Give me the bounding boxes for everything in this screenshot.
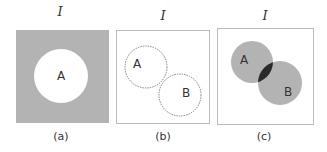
caption-b: (b)	[155, 130, 171, 143]
universe-label-c: I	[261, 8, 268, 23]
set-a-label: A	[133, 57, 142, 71]
panel-c: I A B (c)	[218, 8, 314, 143]
panel-b: I A B (b)	[117, 8, 210, 143]
caption-a: (a)	[53, 130, 68, 143]
universe-label-b: I	[159, 8, 166, 23]
panel-a: I A (a)	[16, 4, 109, 143]
caption-c: (c)	[257, 130, 272, 143]
set-a-label: A	[57, 69, 66, 83]
set-b-label: B	[284, 85, 292, 99]
venn-figure: I A (a) I A B (b) I A B (c)	[0, 0, 327, 152]
set-b-label: B	[182, 86, 190, 100]
universe-label-a: I	[56, 4, 63, 19]
set-a-label: A	[240, 53, 249, 67]
